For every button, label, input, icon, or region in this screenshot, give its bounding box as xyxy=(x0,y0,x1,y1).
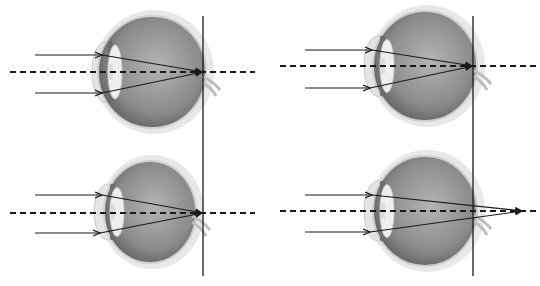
pupil xyxy=(110,204,115,220)
diagram-canvas xyxy=(0,0,540,286)
eye-bottom-left xyxy=(94,155,210,269)
eye-focus-diagram xyxy=(0,0,540,286)
